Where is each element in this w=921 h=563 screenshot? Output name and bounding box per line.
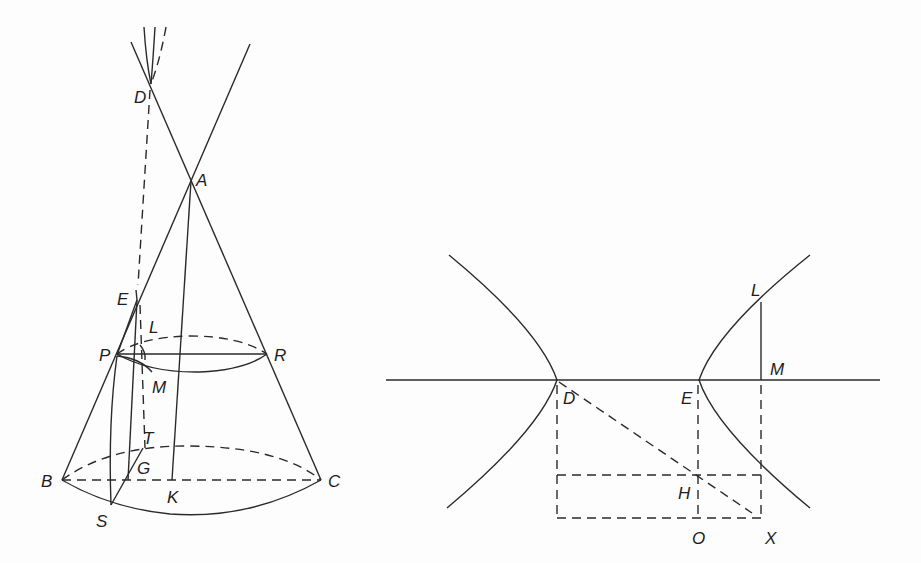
e-tick — [136, 290, 137, 300]
label-P: P — [99, 346, 111, 365]
cone-axis — [172, 181, 191, 480]
cone-left-edge — [62, 44, 250, 480]
curve-l — [140, 345, 145, 360]
dashed-d-line — [138, 90, 150, 285]
label-E-right: E — [681, 389, 693, 408]
label-B: B — [41, 472, 52, 491]
label-M-right: M — [770, 360, 785, 379]
base-back — [62, 446, 321, 480]
label-M: M — [152, 378, 167, 397]
label-T: T — [143, 429, 155, 448]
label-R: R — [274, 346, 286, 365]
label-D-right: D — [563, 389, 575, 408]
label-E: E — [117, 290, 129, 309]
dashed-diagonal-dx — [559, 382, 752, 513]
label-L: L — [149, 318, 158, 337]
cone-right-edge — [131, 42, 321, 480]
label-S: S — [96, 512, 108, 531]
line-e-g — [128, 300, 137, 480]
hyperbola-left-branch — [447, 255, 557, 508]
label-A: A — [195, 171, 207, 190]
label-K: K — [167, 488, 179, 507]
label-D: D — [134, 88, 146, 107]
label-H: H — [678, 484, 691, 503]
label-G: G — [137, 459, 150, 478]
cone-diagram: D A E L P R M T G B C K S — [41, 27, 341, 531]
circle-front-pr — [117, 354, 267, 372]
geometry-figure: D A E L P R M T G B C K S D E L M H O X — [0, 0, 921, 563]
label-X: X — [764, 529, 777, 548]
label-O: O — [692, 529, 705, 548]
curve-p-s — [110, 356, 117, 505]
hyperbola-diagram: D E L M H O X — [386, 255, 880, 548]
circle-back-pr — [117, 336, 267, 354]
dashed-e-t — [140, 305, 145, 448]
label-C: C — [328, 472, 341, 491]
label-L-right: L — [751, 281, 760, 300]
base-front — [62, 480, 321, 515]
